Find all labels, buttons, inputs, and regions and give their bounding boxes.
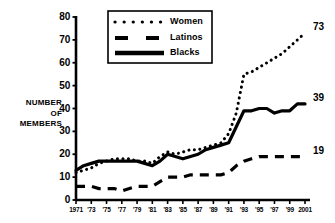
y-tick-label-10: 10: [48, 171, 70, 182]
y-tick-label-0: 0: [48, 194, 70, 205]
legend-label-blacks: Blacks: [170, 47, 200, 57]
y-tick-label-30: 30: [48, 125, 70, 136]
end-label-women: 73: [313, 21, 324, 32]
y-tick-label-40: 40: [48, 103, 70, 114]
x-tick-label-2001: 2001: [291, 206, 319, 213]
series-blacks: [76, 104, 305, 170]
legend-label-women: Women: [170, 16, 203, 26]
chart-container: NUMBER OF MEMBERS 01020304050607080 1971…: [0, 0, 335, 223]
y-tick-label-50: 50: [48, 80, 70, 91]
legend-label-latinos: Latinos: [170, 32, 203, 42]
y-tick-label-60: 60: [48, 57, 70, 68]
y-tick-label-20: 20: [48, 148, 70, 159]
y-tick-label-80: 80: [48, 11, 70, 22]
end-label-latinos: 19: [313, 145, 324, 156]
y-tick-label-70: 70: [48, 34, 70, 45]
end-label-blacks: 39: [313, 92, 324, 103]
